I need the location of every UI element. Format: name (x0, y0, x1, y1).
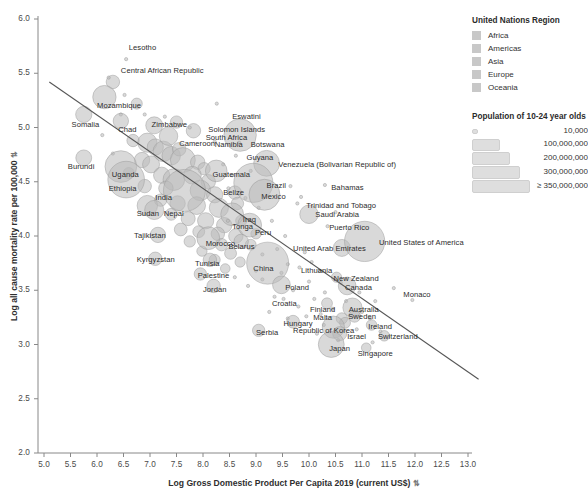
data-point-unlabeled[interactable] (392, 286, 395, 289)
point-label: Finland (310, 306, 335, 314)
data-point-unlabeled[interactable] (371, 341, 374, 344)
data-point-unlabeled[interactable] (174, 223, 187, 236)
y-tick-label: 3.0 (6, 340, 30, 349)
point-label: Uganda (112, 171, 139, 179)
x-tick-label: 9.0 (250, 460, 262, 469)
point-label: Guatemala (213, 171, 251, 179)
data-point[interactable] (215, 102, 218, 105)
x-tick-label: 13.0 (460, 460, 476, 469)
point-label: Solomon Islands (208, 126, 265, 134)
data-point-unlabeled[interactable] (273, 295, 276, 298)
point-label: New Zealand (333, 275, 378, 283)
data-point-unlabeled[interactable] (233, 276, 236, 279)
x-tick-label: 6.5 (118, 460, 130, 469)
data-point-unlabeled[interactable] (299, 195, 302, 198)
region-color-swatch (472, 57, 481, 66)
region-color-swatch (472, 83, 481, 92)
data-point[interactable] (226, 219, 229, 222)
data-point[interactable] (234, 154, 237, 157)
size-legend-item[interactable]: 10,000 (472, 124, 588, 137)
size-legend-item[interactable]: ≥ 350,000,000 (472, 178, 588, 192)
data-point-unlabeled[interactable] (355, 328, 358, 331)
point-label: Sudan (137, 210, 159, 218)
scatter-plot-figure: 5.05.56.06.57.07.58.08.59.09.510.010.511… (0, 0, 588, 498)
region-legend-item-europe[interactable]: Europe (472, 68, 588, 81)
data-point-unlabeled[interactable] (246, 284, 249, 287)
data-point-unlabeled[interactable] (305, 315, 308, 318)
region-legend-item-asia[interactable]: Asia (472, 55, 588, 68)
x-tick-label: 6.0 (91, 460, 103, 469)
point-label: Singapore (358, 350, 393, 358)
x-axis-title: Log Gross Domestic Product Per Capita 20… (168, 478, 420, 488)
data-point-unlabeled[interactable] (235, 257, 245, 267)
point-label: Tunisia (195, 260, 220, 268)
y-axis-title: Log all cause mortality rate per 100,000… (9, 151, 19, 321)
point-label: Venezuela (Bolivarian Republic of) (278, 161, 396, 169)
region-legend-item-oceania[interactable]: Oceania (472, 81, 588, 94)
data-point-unlabeled[interactable] (323, 291, 326, 294)
data-point[interactable] (159, 127, 177, 145)
point-label: Canada (345, 284, 372, 292)
region-legend-item-africa[interactable]: Africa (472, 29, 588, 42)
size-legend-item[interactable]: 300,000,000 (472, 164, 588, 178)
x-tick-label: 5.5 (65, 460, 77, 469)
data-point-unlabeled[interactable] (123, 93, 126, 96)
data-point-unlabeled[interactable] (297, 305, 300, 308)
region-legend: United Nations Region AfricaAmericasAsia… (472, 16, 588, 94)
x-tick-label: 10.0 (301, 460, 317, 469)
point-label: Palestine (198, 272, 230, 280)
data-point-unlabeled[interactable] (374, 299, 377, 302)
point-label: Brazil (267, 182, 286, 190)
x-tick-label: 9.5 (277, 460, 289, 469)
point-label: Poland (285, 284, 309, 292)
point-label: Lithuania (301, 267, 332, 275)
size-legend-item[interactable]: 100,000,000 (472, 137, 588, 150)
region-legend-item-americas[interactable]: Americas (472, 42, 588, 55)
data-point-unlabeled[interactable] (284, 234, 287, 237)
x-axis-sort-icon[interactable]: ⇅ (413, 479, 420, 488)
point-label: India (155, 194, 172, 202)
point-label: Tajikistan (134, 232, 166, 240)
point-label: Tonga (232, 223, 253, 231)
point-label: Ethiopia (109, 185, 137, 193)
point-label: Cameroon (179, 140, 215, 148)
point-label: Namibia (215, 141, 243, 149)
data-point[interactable] (296, 202, 299, 205)
point-label: Republic of Korea (293, 327, 354, 335)
size-legend-label: 10,000 (564, 126, 588, 135)
region-legend-rows: AfricaAmericasAsiaEuropeOceania (472, 29, 588, 94)
region-legend-label: Africa (488, 31, 508, 40)
point-label: Somalia (72, 121, 100, 129)
point-label: Israel (347, 333, 366, 341)
data-point-unlabeled[interactable] (184, 236, 195, 247)
data-point[interactable] (188, 126, 191, 129)
data-point-unlabeled[interactable] (270, 219, 273, 222)
data-point-unlabeled[interactable] (143, 113, 146, 116)
size-legend-title: Population of 10-24 year olds (472, 112, 588, 121)
point-label: Croatia (272, 300, 297, 308)
size-legend-bubble (472, 180, 530, 193)
point-label: Ireland (368, 323, 392, 331)
data-point[interactable] (125, 58, 128, 61)
data-point-unlabeled[interactable] (289, 184, 292, 187)
point-label: Chad (118, 126, 136, 134)
region-color-swatch (472, 44, 481, 53)
point-label: Guyana (246, 154, 273, 162)
x-tick-label: 8.0 (197, 460, 209, 469)
data-point-unlabeled[interactable] (163, 115, 166, 118)
x-tick-label: 7.0 (144, 460, 156, 469)
point-label: Mexico (261, 193, 285, 201)
y-axis-sort-icon[interactable]: ⇅ (10, 151, 19, 158)
data-point-unlabeled[interactable] (268, 310, 271, 313)
data-point-unlabeled[interactable] (101, 133, 104, 136)
x-tick-label: 11.0 (354, 460, 370, 469)
data-point[interactable] (323, 183, 326, 186)
point-label: Central African Republic (121, 67, 204, 75)
size-legend-item[interactable]: 200,000,000 (472, 150, 588, 164)
data-point[interactable] (411, 298, 414, 301)
data-point-unlabeled[interactable] (313, 297, 316, 300)
point-label: United States of America (379, 239, 464, 247)
region-legend-label: Oceania (488, 83, 518, 92)
data-point[interactable] (107, 76, 110, 79)
data-point-unlabeled[interactable] (186, 124, 200, 138)
